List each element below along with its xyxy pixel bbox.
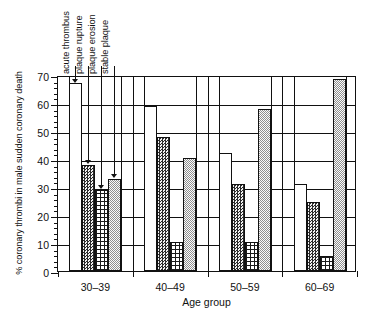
bar-acute-thrombus-50–59: [219, 153, 232, 271]
y-gridline: [58, 161, 355, 162]
y-tick-minor: [54, 239, 59, 240]
y-tick-minor: [54, 127, 59, 128]
x-tick-label: 30–39: [81, 281, 110, 293]
annotation-leader-line: [101, 66, 102, 185]
x-tick: [208, 271, 209, 277]
bar-stable-plaque-60–69: [333, 79, 346, 271]
group-separator-line: [133, 77, 134, 271]
annotation-leader-line: [88, 66, 89, 160]
y-tick-minor: [54, 83, 59, 84]
x-tick-label: 40–49: [156, 281, 185, 293]
y-tick-minor: [54, 251, 59, 252]
y-gridline: [58, 133, 355, 134]
y-tick-minor: [54, 155, 59, 156]
y-tick-label: 30: [37, 183, 49, 195]
y-tick-label: 50: [37, 127, 49, 139]
y-tick-label: 0: [43, 267, 49, 279]
x-gridline: [196, 77, 197, 271]
bar-plaque-rupture-30–39: [82, 165, 95, 271]
y-tick-minor: [54, 88, 59, 89]
y-tick-major: [51, 189, 58, 190]
bar-chart-figure: % coronary thrombi in male sudden corona…: [0, 0, 366, 319]
y-tick-major: [51, 105, 58, 106]
bar-acute-thrombus-40–49: [144, 106, 157, 271]
y-tick-minor: [54, 195, 59, 196]
y-tick-minor: [54, 150, 59, 151]
y-tick-label: 20: [37, 211, 49, 223]
x-tick-label: 60–69: [305, 281, 334, 293]
y-tick-minor: [54, 178, 59, 179]
annotation-label-acute-thrombus: acute thrombus: [61, 11, 71, 74]
y-tick-major: [51, 77, 58, 78]
x-gridline: [346, 77, 347, 271]
y-tick-minor: [54, 228, 59, 229]
y-tick-label: 40: [37, 155, 49, 167]
x-tick: [133, 271, 134, 277]
y-tick-minor: [54, 256, 59, 257]
group-separator-line: [282, 77, 283, 271]
y-tick-minor: [54, 139, 59, 140]
annotation-arrowhead: [98, 185, 104, 189]
y-tick-minor: [54, 99, 59, 100]
y-tick-minor: [54, 94, 59, 95]
y-tick-major: [51, 133, 58, 134]
y-tick-label: 10: [37, 239, 49, 251]
y-tick-label: 60: [37, 99, 49, 111]
y-tick-minor: [54, 111, 59, 112]
bar-plaque-rupture-40–49: [157, 137, 170, 271]
y-tick-major: [51, 161, 58, 162]
bar-plaque-rupture-50–59: [232, 184, 245, 271]
y-tick-major: [51, 217, 58, 218]
y-tick-minor: [54, 206, 59, 207]
y-tick-minor: [54, 116, 59, 117]
y-tick-minor: [54, 200, 59, 201]
y-tick-major: [51, 273, 58, 274]
y-tick-label: 70: [37, 71, 49, 83]
y-tick-minor: [54, 223, 59, 224]
bar-plaque-rupture-60–69: [307, 202, 320, 271]
y-tick-minor: [54, 234, 59, 235]
x-tick: [282, 271, 283, 277]
y-tick-minor: [54, 211, 59, 212]
annotation-leader-line: [114, 66, 115, 174]
y-tick-minor: [54, 122, 59, 123]
y-tick-major: [51, 245, 58, 246]
x-gridline: [271, 77, 272, 271]
bar-acute-thrombus-60–69: [294, 184, 307, 271]
bar-stable-plaque-50–59: [258, 109, 271, 271]
x-tick: [58, 271, 59, 277]
bar-acute-thrombus-30–39: [69, 83, 82, 271]
annotation-label-plaque-erosion: plaque erosion: [87, 14, 97, 74]
x-tick: [357, 271, 358, 277]
y-tick-minor: [54, 144, 59, 145]
annotation-arrowhead: [85, 160, 91, 164]
bar-plaque-erosion-30–39: [95, 190, 108, 271]
y-tick-minor: [54, 267, 59, 268]
y-tick-minor: [54, 167, 59, 168]
annotation-arrowhead: [72, 79, 78, 83]
x-axis-title: Age group: [57, 296, 356, 308]
bar-plaque-erosion-40–49: [170, 242, 183, 271]
y-tick-minor: [54, 183, 59, 184]
bar-plaque-erosion-50–59: [245, 242, 258, 271]
annotation-arrowhead: [111, 174, 117, 178]
y-axis-title: % coronary thrombi in male sudden corona…: [14, 58, 24, 288]
y-tick-minor: [54, 262, 59, 263]
group-separator-line: [208, 77, 209, 271]
y-tick-minor: [54, 172, 59, 173]
x-gridline: [121, 77, 122, 271]
annotation-label-stable-plaque: stable plaque: [100, 20, 110, 74]
y-gridline: [58, 105, 355, 106]
bar-stable-plaque-30–39: [108, 179, 121, 271]
bar-plaque-erosion-60–69: [320, 256, 333, 271]
annotation-label-plaque-rupture: plaque rupture: [74, 15, 84, 74]
x-tick-label: 50–59: [230, 281, 259, 293]
bar-stable-plaque-40–49: [183, 158, 196, 271]
